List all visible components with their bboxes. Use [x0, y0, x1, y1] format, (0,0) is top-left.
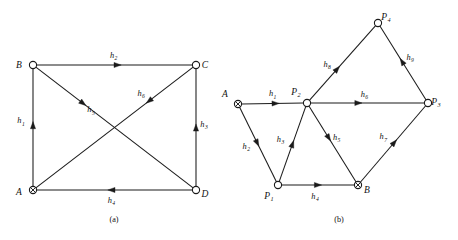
edge-label-b-h7: h7 — [380, 132, 388, 142]
node-circle-icon[interactable] — [192, 186, 199, 193]
edge-label-b-h3: h3 — [277, 135, 285, 145]
edge-b-h8: h8 — [309, 26, 375, 101]
panel-b: h1h2h3h4h5h6h7h8h9AP1P2BP3P4(b) — [221, 12, 441, 224]
edge-b-h4: h4 — [282, 182, 355, 202]
edge-a-h2: h2 — [37, 51, 193, 68]
arrow-head-icon — [272, 101, 279, 106]
edge-label-a-h4: h4 — [108, 196, 116, 206]
node-circle-icon[interactable] — [192, 61, 199, 68]
panel-caption-panel-a: (a) — [109, 215, 118, 224]
edge-line — [309, 106, 356, 182]
node-label-panel-a-C: C — [202, 60, 209, 70]
node-panel-b-B[interactable]: B — [354, 181, 370, 195]
figure-svg: h1h2h3h4h5h6ABCD(a)h1h2h3h4h5h6h7h8h9AP1… — [0, 0, 458, 240]
arrow-head-icon — [400, 58, 406, 65]
node-label-panel-b-P1: P1 — [263, 191, 273, 202]
arrow-head-icon — [108, 187, 115, 192]
node-panel-a-D[interactable]: D — [192, 186, 208, 199]
node-label-panel-b-P4: P4 — [380, 12, 390, 23]
arrow-head-icon — [114, 62, 121, 67]
node-panel-b-P1[interactable]: P1 — [263, 181, 281, 202]
edge-b-h6: h6 — [311, 90, 425, 106]
node-panel-a-B[interactable]: B — [16, 60, 37, 70]
arrow-head-icon — [314, 182, 321, 187]
node-circle-icon[interactable] — [274, 181, 281, 188]
edge-label-a-h3: h3 — [200, 120, 208, 130]
edge-a-h4: h4 — [37, 187, 193, 206]
arrow-head-icon — [289, 141, 294, 149]
arrow-head-icon — [355, 100, 362, 105]
panel-caption-panel-b: (b) — [334, 215, 344, 224]
arrow-head-icon — [146, 97, 153, 103]
edge-line — [309, 26, 375, 101]
node-label-panel-a-B: B — [16, 60, 22, 70]
edge-a-h1: h1 — [17, 69, 35, 187]
edge-label-b-h4: h4 — [311, 192, 319, 202]
node-circle-icon[interactable] — [303, 99, 310, 106]
node-panel-b-P4[interactable]: P4 — [374, 12, 390, 27]
node-panel-a-A[interactable]: A — [15, 186, 37, 197]
node-panel-b-A[interactable]: A — [221, 89, 242, 108]
edge-label-b-h5: h5 — [333, 133, 341, 143]
edge-label-a-h5: h5 — [87, 105, 95, 115]
node-circle-icon[interactable] — [29, 61, 36, 68]
edge-label-b-h8: h8 — [324, 60, 332, 70]
arrow-head-icon — [325, 133, 331, 140]
edge-label-a-h6: h6 — [137, 89, 145, 99]
arrow-head-icon — [79, 99, 86, 105]
edge-label-b-h2: h2 — [243, 142, 251, 152]
node-label-panel-a-D: D — [201, 189, 209, 199]
edge-a-h3: h3 — [193, 69, 207, 187]
node-panel-b-P3[interactable]: P3 — [424, 97, 440, 108]
node-panel-a-C[interactable]: C — [192, 60, 208, 70]
edge-b-h3: h3 — [277, 106, 306, 181]
edge-b-h7: h7 — [360, 106, 425, 183]
arrow-head-icon — [253, 139, 259, 147]
node-label-panel-b-A: A — [221, 89, 228, 99]
edge-b-h5: h5 — [309, 106, 356, 182]
node-label-panel-b-P3: P3 — [430, 97, 440, 108]
arrow-head-icon — [30, 122, 35, 129]
figure-root: h1h2h3h4h5h6ABCD(a)h1h2h3h4h5h6h7h8h9AP1… — [0, 0, 458, 240]
edge-label-a-h1: h1 — [17, 116, 25, 126]
edge-b-h9: h9 — [380, 26, 426, 100]
edge-b-h2: h2 — [240, 107, 277, 182]
node-label-panel-b-P2: P2 — [290, 87, 300, 98]
panel-a: h1h2h3h4h5h6ABCD(a) — [15, 51, 209, 224]
edge-label-b-h1: h1 — [269, 89, 277, 99]
node-label-panel-a-A: A — [15, 187, 22, 197]
edge-label-b-h6: h6 — [361, 90, 369, 100]
node-label-panel-b-B: B — [364, 185, 370, 195]
arrow-head-icon — [193, 124, 198, 131]
edge-label-b-h9: h9 — [406, 53, 414, 63]
edge-label-a-h2: h2 — [110, 51, 118, 61]
